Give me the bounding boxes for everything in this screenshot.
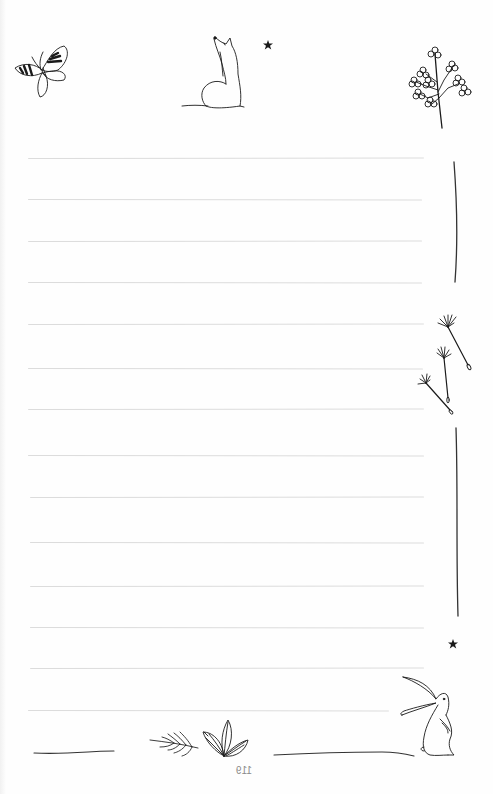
flower-tree-icon bbox=[408, 42, 478, 132]
ruled-line bbox=[28, 241, 422, 242]
butterfly-icon bbox=[12, 40, 74, 100]
page-number: 119 bbox=[232, 765, 256, 776]
ruled-line bbox=[28, 282, 422, 284]
ruled-line bbox=[28, 409, 424, 410]
star-icon bbox=[447, 638, 459, 650]
margin-stroke-bottom bbox=[454, 428, 462, 618]
ruled-line bbox=[30, 586, 424, 587]
leaf-cluster-icon bbox=[200, 718, 250, 760]
ground-line-left bbox=[32, 748, 116, 756]
ruled-line bbox=[28, 710, 389, 712]
ruled-line bbox=[28, 455, 424, 457]
ruled-line bbox=[28, 368, 423, 370]
ruled-line bbox=[28, 199, 422, 201]
ruled-line bbox=[28, 324, 424, 325]
fern-sprig-icon bbox=[148, 728, 202, 758]
ruled-line bbox=[28, 158, 424, 159]
ground-line-right bbox=[272, 748, 416, 758]
ruled-line bbox=[30, 627, 424, 629]
ruled-line bbox=[30, 668, 424, 669]
fox-icon bbox=[180, 34, 256, 114]
dandelion-seeds-icon bbox=[418, 313, 478, 418]
margin-stroke-top bbox=[452, 162, 460, 284]
ruled-line bbox=[30, 497, 424, 498]
ruled-line bbox=[30, 542, 424, 544]
page-edge-shadow bbox=[0, 0, 6, 794]
star-icon bbox=[262, 39, 274, 51]
journal-page: 119 bbox=[0, 0, 493, 794]
